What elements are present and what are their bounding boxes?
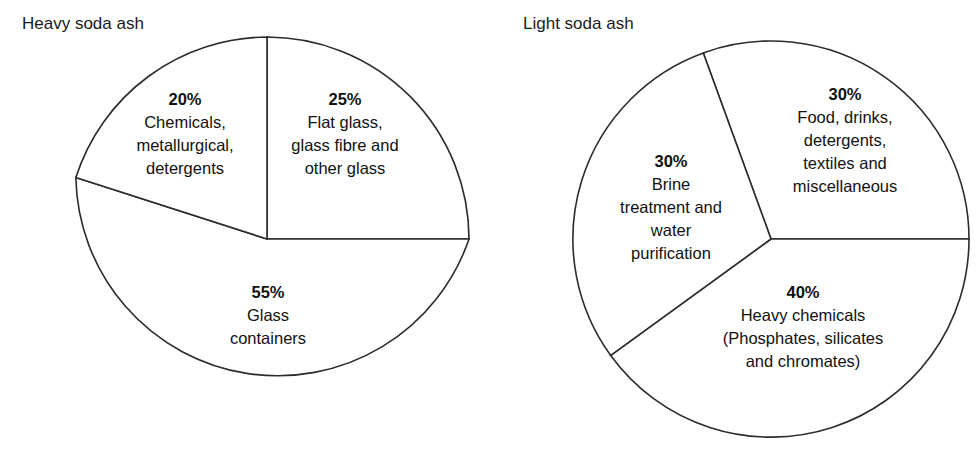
pie-label-light-food-desc: Food, drinks,detergents,textiles andmisc…: [769, 106, 921, 198]
pie-label-light-brine: 30% Brinetreatment andwaterpurification: [604, 150, 738, 265]
pie-label-light-brine-pct: 30%: [604, 150, 738, 173]
pie-label-light-heavy-chemicals-desc: Heavy chemicals(Phosphates, silicatesand…: [689, 304, 917, 373]
pie-label-light-heavy-chemicals: 40% Heavy chemicals(Phosphates, silicate…: [689, 281, 917, 373]
pie-label-light-food: 30% Food, drinks,detergents,textiles and…: [769, 83, 921, 198]
pie-label-light-heavy-chemicals-pct: 40%: [689, 281, 917, 304]
pie-label-light-food-pct: 30%: [769, 83, 921, 106]
pie-label-light-brine-desc: Brinetreatment andwaterpurification: [604, 173, 738, 265]
pie-charts-figure: Heavy soda ash 20% Chemicals,metallurgic…: [0, 0, 978, 465]
pie-chart-light-soda-ash: [0, 0, 978, 465]
